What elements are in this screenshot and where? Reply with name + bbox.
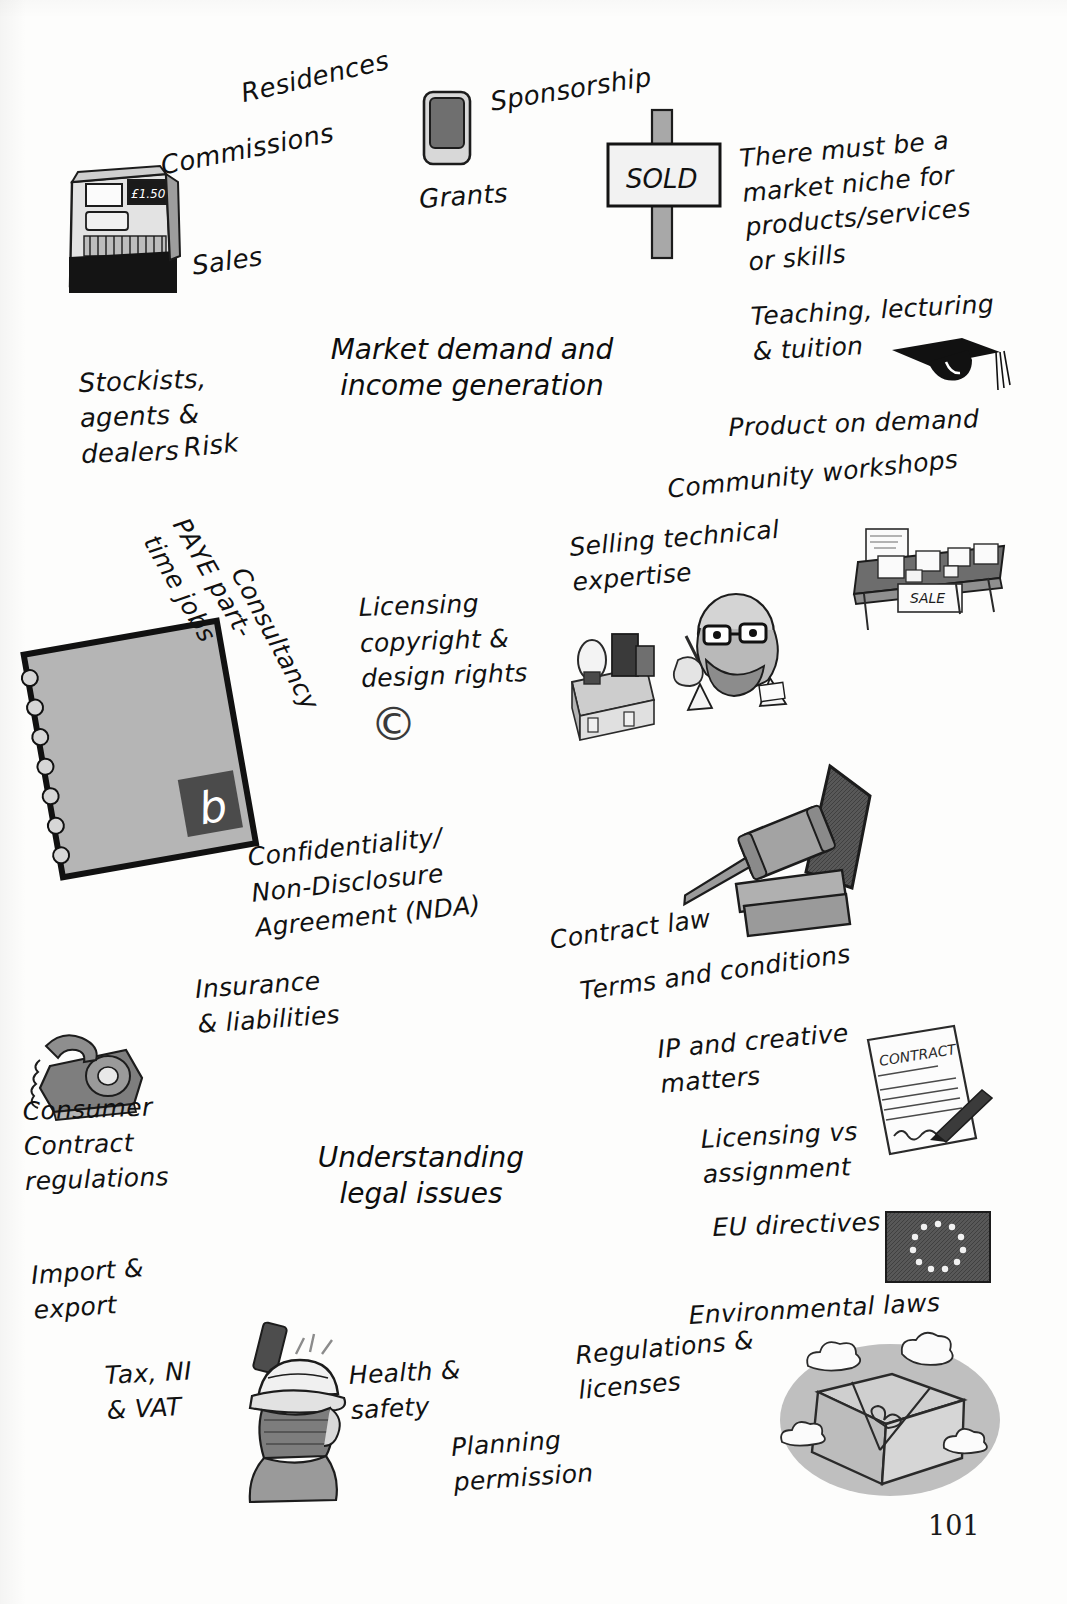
branch-planning-permission: Planning permission bbox=[450, 1420, 595, 1500]
contract-document-icon: CONTRACT bbox=[868, 1026, 992, 1154]
node-legal-label: Understanding legal issues bbox=[290, 1140, 552, 1213]
page-number: 101 bbox=[928, 1510, 980, 1541]
sale-table-icon: SALE bbox=[854, 529, 1004, 630]
hard-hat-worker-icon bbox=[250, 1322, 345, 1502]
svg-text:£1.50: £1.50 bbox=[131, 187, 166, 201]
cash-register-icon: £1.50 bbox=[70, 166, 180, 292]
branch-market-niche: There must be a market niche for product… bbox=[738, 122, 975, 279]
svg-text:SOLD: SOLD bbox=[626, 164, 697, 194]
parcel-cloud-icon bbox=[780, 1333, 1000, 1496]
wallet-icon bbox=[424, 92, 470, 164]
branch-import-export: Import & export bbox=[30, 1250, 147, 1328]
sold-sign-icon: SOLD bbox=[608, 110, 720, 258]
branch-licensing-vs-assignment: Licensing vs assignment bbox=[700, 1114, 860, 1192]
mindmap-page: £1.50 SOLD bbox=[0, 0, 1067, 1604]
branch-grants: Grants bbox=[418, 177, 509, 216]
svg-text:SALE: SALE bbox=[910, 590, 945, 606]
branch-tax-ni-vat: Tax, NI & VAT bbox=[104, 1353, 194, 1427]
branch-stockists: Stockists, agents & dealers bbox=[78, 362, 209, 472]
technician-icon bbox=[572, 594, 786, 740]
branch-teaching: Teaching, lecturing & tuition bbox=[750, 287, 997, 369]
branch-licensing-copyright: Licensing copyright & design rights bbox=[358, 584, 528, 696]
branch-health-safety: Health & safety bbox=[348, 1352, 463, 1428]
branch-insurance: Insurance & liabilities bbox=[194, 962, 341, 1042]
copyright-icon: © bbox=[370, 700, 417, 747]
branch-consumer-contract: Consumer Contract regulations bbox=[22, 1089, 169, 1199]
eu-flag-icon bbox=[886, 1212, 990, 1282]
notebook-icon: b bbox=[18, 621, 256, 879]
branch-eu-directives: EU directives bbox=[712, 1206, 881, 1243]
node-market-label: Market demand and income generation bbox=[322, 332, 622, 405]
